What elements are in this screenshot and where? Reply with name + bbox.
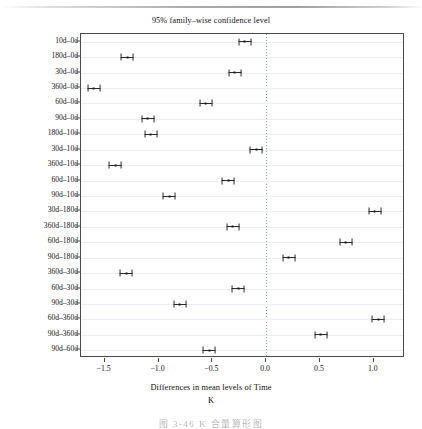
- gridline: [81, 88, 403, 89]
- confidence-interval-marker: [250, 146, 263, 153]
- x-tick-mark: [158, 358, 159, 362]
- y-tick-label: 360d–0d: [4, 83, 78, 91]
- y-tick-label: 10d–0d: [4, 37, 78, 45]
- confidence-interval-marker: [87, 85, 100, 92]
- gridline: [81, 350, 403, 351]
- gridline: [81, 119, 403, 120]
- ci-upper-cap: [121, 162, 122, 169]
- ci-center-point: [168, 195, 170, 197]
- confidence-interval-marker: [368, 208, 381, 215]
- gridline: [81, 304, 403, 305]
- confidence-interval-marker: [282, 254, 295, 261]
- y-tick-label: 60d–360d: [4, 314, 78, 322]
- gridline: [81, 181, 403, 182]
- ci-center-point: [288, 257, 290, 259]
- x-tick-label: 1.0: [368, 364, 378, 373]
- confidence-interval-marker: [232, 285, 245, 292]
- ci-upper-cap: [380, 208, 381, 215]
- ci-center-point: [237, 288, 239, 290]
- y-tick-label: 90d–360d: [4, 330, 78, 338]
- x-axis: −1.5−1.0−0.50.00.51.0: [80, 358, 404, 380]
- y-tick-label: 90d–180d: [4, 253, 78, 261]
- y-tick-label: 360d–10d: [4, 160, 78, 168]
- chart-title: 95% family–wise confidence level: [0, 16, 422, 25]
- ci-center-point: [244, 41, 246, 43]
- gridline: [81, 319, 403, 320]
- ci-center-point: [179, 303, 181, 305]
- y-axis-labels: 10d–0d180d–0d30d–0d360d–0d60d–0d90d–0d18…: [0, 33, 78, 357]
- ci-center-point: [125, 272, 127, 274]
- y-tick-label: 60d–0d: [4, 98, 78, 106]
- gridline: [81, 258, 403, 259]
- y-tick-label: 60d–180d: [4, 237, 78, 245]
- ci-upper-cap: [132, 270, 133, 277]
- confidence-interval-marker: [228, 69, 241, 76]
- ci-center-point: [126, 56, 128, 58]
- y-tick-label: 30d–0d: [4, 68, 78, 76]
- confidence-interval-marker: [121, 54, 134, 61]
- y-tick-label: 90d–10d: [4, 191, 78, 199]
- confidence-interval-marker: [199, 100, 212, 107]
- ci-center-point: [150, 133, 152, 135]
- ci-upper-cap: [99, 85, 100, 92]
- y-tick-label: 30d–10d: [4, 145, 78, 153]
- ci-upper-cap: [156, 131, 157, 138]
- ci-upper-cap: [351, 239, 352, 246]
- ci-center-point: [227, 180, 229, 182]
- gridline: [81, 73, 403, 74]
- x-tick-label: −1.0: [150, 364, 164, 373]
- ci-center-point: [93, 87, 95, 89]
- confidence-interval-marker: [174, 301, 187, 308]
- ci-upper-cap: [185, 301, 186, 308]
- ci-upper-cap: [244, 285, 245, 292]
- confidence-interval-marker: [109, 162, 122, 169]
- ci-upper-cap: [133, 54, 134, 61]
- x-tick-mark: [211, 358, 212, 362]
- gridline: [81, 211, 403, 212]
- y-tick-label: 60d–30d: [4, 284, 78, 292]
- ci-upper-cap: [238, 223, 239, 230]
- confidence-interval-plot: 95% family–wise confidence level 10d–0d1…: [0, 0, 422, 429]
- x-tick-mark: [265, 358, 266, 362]
- gridline: [81, 196, 403, 197]
- confidence-interval-marker: [145, 131, 158, 138]
- x-tick-label: −1.5: [97, 364, 111, 373]
- gridline: [81, 335, 403, 336]
- ci-center-point: [320, 334, 322, 336]
- confidence-interval-marker: [372, 316, 385, 323]
- figure-caption: 图 3-46 K 合量算形图: [0, 417, 422, 429]
- ci-upper-cap: [153, 115, 154, 122]
- y-tick-label: 180d–10d: [4, 129, 78, 137]
- ci-upper-cap: [262, 146, 263, 153]
- ci-center-point: [374, 210, 376, 212]
- gridline: [81, 242, 403, 243]
- ci-center-point: [205, 102, 207, 104]
- y-tick-label: 360d–30d: [4, 268, 78, 276]
- y-tick-label: 180d–0d: [4, 52, 78, 60]
- confidence-interval-marker: [315, 331, 328, 338]
- ci-upper-cap: [234, 177, 235, 184]
- ci-center-point: [208, 349, 210, 351]
- zero-reference-line: [266, 34, 267, 356]
- gridline: [81, 103, 403, 104]
- ci-center-point: [234, 72, 236, 74]
- confidence-interval-marker: [226, 223, 239, 230]
- ci-upper-cap: [240, 69, 241, 76]
- ci-upper-cap: [384, 316, 385, 323]
- y-tick-label: 60d–10d: [4, 176, 78, 184]
- x-axis-label: Differences in mean levels of Time: [0, 383, 422, 392]
- ci-center-point: [345, 241, 347, 243]
- ci-upper-cap: [211, 100, 212, 107]
- confidence-interval-marker: [238, 38, 251, 45]
- ci-center-point: [232, 226, 234, 228]
- gridline: [81, 165, 403, 166]
- confidence-interval-marker: [141, 115, 154, 122]
- y-tick-label: 360d–180d: [4, 222, 78, 230]
- y-tick-label: 30d–180d: [4, 206, 78, 214]
- gridline: [81, 134, 403, 135]
- confidence-interval-marker: [120, 270, 133, 277]
- confidence-interval-marker: [339, 239, 352, 246]
- ci-center-point: [147, 118, 149, 120]
- ci-center-point: [114, 164, 116, 166]
- x-axis-sublabel: K: [0, 396, 422, 405]
